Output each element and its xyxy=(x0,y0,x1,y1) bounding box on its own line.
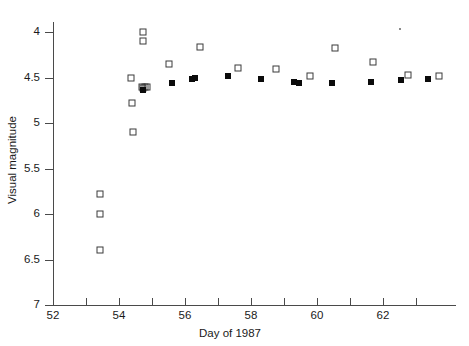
data-point-filled-squares xyxy=(169,80,175,86)
y-tick-label: 7 xyxy=(0,299,40,311)
x-tick-mark xyxy=(119,298,120,305)
x-axis-line xyxy=(53,305,456,306)
data-point-open-squares xyxy=(96,211,103,218)
data-point-open-squares xyxy=(129,129,136,136)
data-point-filled-squares xyxy=(296,80,302,86)
scatter-chart-figure: 44.555.566.57 525456586062 Visual magnit… xyxy=(0,0,469,346)
x-tick-mark xyxy=(317,298,318,305)
data-point-open-squares xyxy=(332,45,339,52)
data-point-open-squares xyxy=(139,29,146,36)
data-point-open-squares xyxy=(307,72,314,79)
plot-area xyxy=(0,0,469,346)
data-point-open-squares xyxy=(139,83,146,90)
data-point-open-squares xyxy=(139,85,146,92)
y-tick-label: 4 xyxy=(0,26,40,38)
data-point-filled-squares xyxy=(192,75,198,81)
data-point-filled-squares xyxy=(258,76,264,82)
x-tick-mark xyxy=(53,298,54,305)
y-tick-label: 6.5 xyxy=(0,254,40,266)
x-tick-label: 54 xyxy=(113,310,126,322)
x-tick-label: 58 xyxy=(245,310,258,322)
x-tick-mark xyxy=(383,298,384,305)
y-tick-mark xyxy=(45,214,53,215)
data-point-open-squares xyxy=(144,83,151,90)
x-tick-mark xyxy=(251,298,252,305)
y-tick-mark xyxy=(45,32,53,33)
y-tick-mark xyxy=(45,305,53,306)
x-tick-mark xyxy=(152,298,153,305)
data-point-filled-squares xyxy=(398,77,404,83)
x-tick-mark xyxy=(185,298,186,305)
data-point-open-squares xyxy=(436,72,443,79)
x-tick-mark xyxy=(350,298,351,305)
data-point-open-squares xyxy=(272,66,279,73)
x-tick-label: 60 xyxy=(311,310,324,322)
x-tick-mark xyxy=(218,298,219,305)
data-point-open-squares xyxy=(141,83,148,90)
data-point-open-squares xyxy=(129,99,136,106)
y-axis-title: Visual magnitude xyxy=(6,70,18,250)
data-point-stray-point xyxy=(399,28,401,30)
x-tick-label: 52 xyxy=(47,310,60,322)
y-tick-mark xyxy=(45,78,53,79)
data-point-open-squares xyxy=(404,71,411,78)
data-point-filled-squares xyxy=(368,79,374,85)
data-point-filled-squares xyxy=(329,80,335,86)
x-axis-title: Day of 1987 xyxy=(130,327,330,339)
y-tick-mark xyxy=(45,169,53,170)
y-tick-mark xyxy=(45,123,53,124)
data-point-open-squares xyxy=(196,43,203,50)
x-tick-label: 62 xyxy=(377,310,390,322)
data-point-open-squares xyxy=(96,190,103,197)
data-point-open-squares xyxy=(370,59,377,66)
x-tick-mark xyxy=(416,298,417,305)
data-point-filled-squares xyxy=(189,76,195,82)
data-point-filled-squares xyxy=(140,87,146,93)
data-point-filled-squares xyxy=(291,79,297,85)
data-point-open-squares xyxy=(127,74,134,81)
x-tick-mark xyxy=(86,298,87,305)
y-axis-line xyxy=(53,22,54,306)
data-point-open-squares xyxy=(234,65,241,72)
y-tick-mark xyxy=(45,260,53,261)
data-point-filled-squares xyxy=(225,73,231,79)
data-point-open-squares xyxy=(96,247,103,254)
data-point-open-squares xyxy=(140,38,147,45)
x-tick-mark xyxy=(284,298,285,305)
data-point-filled-squares xyxy=(425,76,431,82)
data-point-open-squares xyxy=(165,60,172,67)
x-tick-label: 56 xyxy=(179,310,192,322)
